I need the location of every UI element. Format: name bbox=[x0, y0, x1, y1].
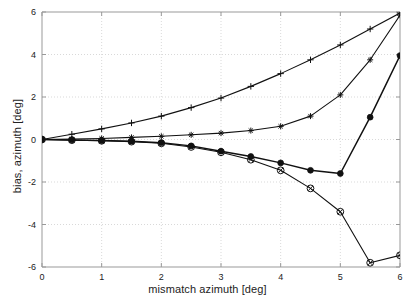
x-tick-label: 1 bbox=[99, 272, 104, 282]
x-tick-label: 5 bbox=[338, 272, 343, 282]
plot-canvas: 0123456-6-4-20246 bbox=[0, 0, 415, 303]
series-asterisk-curve bbox=[39, 12, 403, 142]
tick-labels: 0123456-6-4-20246 bbox=[28, 7, 403, 282]
series-plus-curve bbox=[39, 10, 403, 143]
y-tick-label: 4 bbox=[31, 50, 36, 60]
x-tick-label: 6 bbox=[397, 272, 402, 282]
chart-figure: 0123456-6-4-20246 mismatch azimuth [deg]… bbox=[0, 0, 415, 303]
y-axis-label: bias, azimuth [deg] bbox=[11, 66, 23, 226]
y-tick-label: 0 bbox=[31, 135, 36, 145]
y-tick-label: -2 bbox=[28, 177, 36, 187]
y-tick-label: 6 bbox=[31, 7, 36, 17]
grid-lines bbox=[42, 12, 400, 267]
y-tick-label: -4 bbox=[28, 220, 36, 230]
x-tick-label: 2 bbox=[159, 272, 164, 282]
x-tick-label: 4 bbox=[278, 272, 283, 282]
y-tick-label: -6 bbox=[28, 262, 36, 272]
x-tick-label: 0 bbox=[39, 272, 44, 282]
y-tick-label: 2 bbox=[31, 92, 36, 102]
x-axis-label: mismatch azimuth [deg] bbox=[0, 283, 415, 295]
x-tick-label: 3 bbox=[218, 272, 223, 282]
